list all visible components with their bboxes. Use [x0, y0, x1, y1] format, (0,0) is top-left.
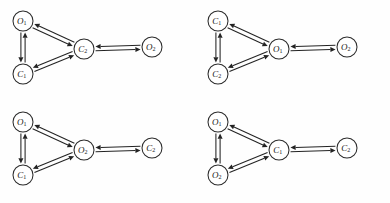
panel-bottom-right-edge-1-rev-shaft [234, 127, 269, 143]
panel-bottom-left-edge-3-rev-shaft [101, 146, 141, 147]
node-o2[interactable]: O2 [142, 37, 162, 57]
panel-top-left-edge-2 [33, 51, 74, 71]
node-o1[interactable]: O1 [13, 11, 33, 31]
panel-top-right-edge-3-rev-head [290, 44, 295, 49]
panel-bottom-left-edge-3-fwd-shaft [96, 151, 136, 152]
panel-bottom-right-edge-2 [228, 152, 269, 172]
node-c2[interactable]: C2 [208, 64, 228, 84]
panel-top-right-edge-0-fwd-head [213, 57, 218, 62]
panel-top-left-edge-0 [18, 33, 27, 63]
panel-bottom-right-canvas: O1O2C1C2 [195, 101, 390, 202]
node-c1[interactable]: C1 [13, 64, 33, 84]
node-o1[interactable]: O1 [13, 112, 33, 132]
panel-bottom-right-edge-3-fwd-head [330, 148, 335, 153]
panel-bottom-right-edge-3 [290, 145, 335, 153]
node-c2[interactable]: C2 [74, 39, 94, 59]
panel-bottom-left-edge-1 [33, 125, 75, 147]
panel-bottom-left-edge-0 [18, 134, 27, 164]
panel-bottom-right-edge-3-rev-head [290, 145, 295, 150]
panel-bottom-right-edge-1-fwd-shaft [228, 129, 263, 145]
panel-top-right-edge-0 [213, 33, 222, 63]
panel-bottom-left-nodes: O1C1O2C2 [13, 112, 162, 185]
panel-bottom-right-edge-3-rev-shaft [296, 146, 336, 147]
panel-top-left-edge-0-fwd-head [18, 57, 23, 62]
node-o2[interactable]: O2 [74, 140, 94, 160]
node-c1[interactable]: C1 [13, 165, 33, 185]
panel-top-right-canvas: C1C2O1O2 [195, 0, 390, 101]
panel-top-right-edge-1 [228, 24, 270, 46]
panel-top-right-edge-1-rev-shaft [234, 26, 269, 42]
panel-bottom-left-edge-2 [33, 152, 74, 172]
panel-bottom-right-edge-1 [228, 125, 270, 147]
panel-bottom-left-edge-3-fwd-head [135, 148, 140, 153]
panel-top-right-edge-3-fwd-shaft [291, 50, 331, 51]
panel-bottom-left-edge-1-rev-shaft [39, 127, 74, 143]
panel-top-left-edge-3-fwd-shaft [96, 50, 136, 51]
panel-bottom-left-edge-0-fwd-head [18, 158, 23, 163]
panel-top-right-nodes: C1C2O1O2 [208, 11, 357, 84]
panel-top-left-edge-3-rev-head [95, 44, 100, 49]
figure-root: O1C1C2O2C1C2O1O2O1C1O2C2O1O2C1C2 [0, 0, 390, 203]
node-c2[interactable]: C2 [337, 138, 357, 158]
panel-bottom-left-edge-3 [95, 145, 140, 153]
node-c2[interactable]: C2 [142, 138, 162, 158]
panel-bottom-left-edge-3-rev-head [95, 145, 100, 150]
panel-bottom-right-edge-0-fwd-head [213, 158, 218, 163]
panel-top-left-nodes: O1C1C2O2 [13, 11, 162, 84]
panel-bottom-right-nodes: O1O2C1C2 [208, 112, 357, 185]
panel-bottom-right: O1O2C1C2 [195, 101, 390, 202]
panel-bottom-right-edge-0 [213, 134, 222, 164]
panel-bottom-left-edge-0-rev-head [23, 134, 28, 139]
node-o2[interactable]: O2 [208, 165, 228, 185]
panel-top-right-edge-1-fwd-shaft [228, 28, 263, 44]
node-o1[interactable]: O1 [208, 112, 228, 132]
panel-top-right-edge-2 [228, 51, 269, 71]
panel-top-left-edge-0-rev-head [23, 33, 28, 38]
panel-top-right-edge-0-rev-head [218, 33, 223, 38]
panel-bottom-left: O1C1O2C2 [0, 101, 195, 202]
panel-bottom-left-canvas: O1C1O2C2 [0, 101, 195, 202]
panel-top-left-edge-3-rev-shaft [101, 45, 141, 46]
node-o2[interactable]: O2 [337, 37, 357, 57]
node-c1[interactable]: C1 [269, 140, 289, 160]
panel-bottom-left-edge-1-fwd-shaft [33, 129, 68, 145]
node-o1[interactable]: O1 [269, 39, 289, 59]
node-c1[interactable]: C1 [208, 11, 228, 31]
panel-top-right-edge-3-rev-shaft [296, 45, 336, 46]
panel-top-right: C1C2O1O2 [195, 0, 390, 101]
panel-top-right-edge-3-fwd-head [330, 47, 335, 52]
panel-top-right-edge-3 [290, 44, 335, 52]
panel-bottom-right-edge-0-rev-head [218, 134, 223, 139]
panel-top-left-edge-1-fwd-shaft [33, 28, 68, 44]
panel-top-left: O1C1C2O2 [0, 0, 195, 101]
panel-top-left-edge-1-rev-shaft [39, 26, 74, 42]
panel-top-left-edge-1 [33, 24, 75, 46]
panel-top-left-edge-3-fwd-head [135, 47, 140, 52]
panel-top-left-edge-3 [95, 44, 140, 52]
panel-top-left-canvas: O1C1C2O2 [0, 0, 195, 101]
panel-bottom-right-edge-3-fwd-shaft [291, 151, 331, 152]
